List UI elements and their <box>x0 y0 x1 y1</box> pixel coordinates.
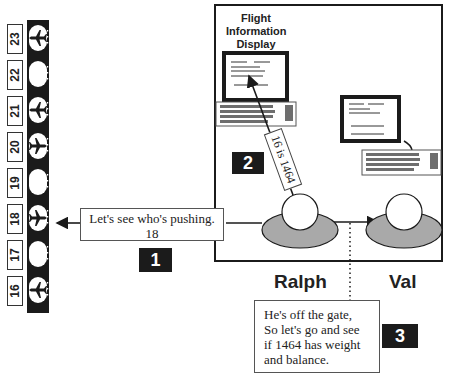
ralph-figure <box>262 194 338 248</box>
fid-keyboard <box>216 102 296 126</box>
speech-line: if 1464 has weight <box>264 337 379 352</box>
person-label-ralph: Ralph <box>274 271 327 293</box>
gate-number: 18 <box>8 212 22 225</box>
speech-line: 18 <box>81 226 223 241</box>
speech-line: Let's see who's pushing. <box>81 211 223 226</box>
step-badge-2: 2 <box>232 152 264 174</box>
speech-line: and balance. <box>264 352 379 367</box>
gate-number: 20 <box>8 140 22 153</box>
val-figure <box>366 194 442 248</box>
gate-label-20: 20 <box>7 132 23 162</box>
gate-number: 23 <box>8 32 22 45</box>
second-keyboard <box>362 150 441 175</box>
gate-label-22: 22 <box>7 60 23 90</box>
gate-label-23: 23 <box>7 24 23 54</box>
fid-title-line: Flight <box>226 12 286 25</box>
person-label-val: Val <box>389 271 416 293</box>
diagram-canvas <box>0 0 452 379</box>
gate-label-17: 17 <box>7 240 23 270</box>
speech-line: So let's go and see <box>264 322 379 337</box>
gate-label-16: 16 <box>7 276 23 306</box>
step-badge-1: 1 <box>139 248 172 272</box>
speech-line: He's off the gate, <box>264 307 379 322</box>
gate-number: 19 <box>8 176 22 189</box>
gate-number: 21 <box>8 104 22 117</box>
gate-number: 17 <box>8 248 22 261</box>
fid-title: Flight Information Display <box>226 12 286 51</box>
fid-title-line: Display <box>226 38 286 51</box>
speech-box-3: He's off the gate, So let's go and see i… <box>254 300 380 373</box>
second-monitor <box>342 97 412 150</box>
gate-number: 16 <box>8 284 22 297</box>
speech-box-1: Let's see who's pushing. 18 <box>80 208 224 241</box>
step-badge-3: 3 <box>382 324 418 348</box>
gate-label-21: 21 <box>7 96 23 126</box>
fid-title-line: Information <box>226 25 286 38</box>
gate-label-19: 19 <box>7 168 23 198</box>
gate-label-18: 18 <box>7 204 23 234</box>
gate-number: 22 <box>8 68 22 81</box>
